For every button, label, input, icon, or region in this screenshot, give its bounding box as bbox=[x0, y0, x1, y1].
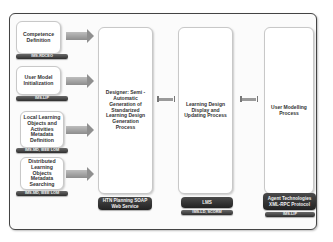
bidirectional-arrow-icon bbox=[157, 96, 175, 102]
tag-label: IMS-LIP bbox=[283, 212, 297, 216]
box-label: User Modelling Process bbox=[269, 105, 309, 117]
box-label: Local Learning Objects and Activities Me… bbox=[23, 115, 61, 145]
box-label: Designer: Semi - Automatic Generation of… bbox=[103, 90, 148, 130]
box-label: User Model Initialization bbox=[19, 75, 58, 87]
tag-label: IMS-RDCEO bbox=[31, 54, 53, 58]
box-label: Competence Definition bbox=[19, 32, 58, 44]
tag-label: HTN Planning SOAP Web Service bbox=[98, 198, 152, 208]
designer-process-box: Designer: Semi - Automatic Generation of… bbox=[98, 27, 153, 194]
standard-tag: IMS-LIP bbox=[265, 212, 315, 217]
standard-tag: IMS-MD, IEEE LOM bbox=[16, 148, 68, 153]
user-modelling-process-box: User Modelling Process bbox=[264, 27, 314, 194]
tag-label: IMS-LD, SCORM bbox=[192, 210, 221, 214]
standard-tag: IMS-RDCEO bbox=[16, 54, 68, 59]
technology-tag: LMS bbox=[181, 197, 233, 208]
box-label: Distributed Learning Objects Metadata Se… bbox=[23, 159, 61, 189]
learning-design-display-box: Learning Design Display and Updating Pro… bbox=[178, 27, 233, 194]
standard-tag: IMS-MD, IEEE LOM bbox=[16, 191, 68, 196]
tag-label: LMS bbox=[202, 200, 212, 205]
technology-tag: Agent Technologies XML-RPC Protocol bbox=[263, 193, 316, 210]
standard-tag: IMS-LD, SCORM bbox=[181, 210, 233, 215]
arrow-right-icon bbox=[66, 168, 94, 180]
tag-label: IMS-LIP bbox=[35, 96, 49, 100]
box-label: Learning Design Display and Updating Pro… bbox=[183, 102, 228, 119]
arrow-right-icon bbox=[66, 124, 94, 136]
user-model-initialization-box: User Model Initialization bbox=[16, 66, 61, 95]
standard-tag: IMS-LIP bbox=[16, 96, 68, 101]
bidirectional-arrow-icon bbox=[240, 96, 258, 102]
tag-label: Agent Technologies XML-RPC Protocol bbox=[263, 196, 316, 206]
competence-definition-box: Competence Definition bbox=[16, 21, 61, 54]
tag-label: IMS-MD, IEEE LOM bbox=[25, 148, 59, 152]
arrow-right-icon bbox=[66, 30, 94, 42]
local-learning-objects-box: Local Learning Objects and Activities Me… bbox=[20, 111, 64, 148]
technology-tag: HTN Planning SOAP Web Service bbox=[98, 197, 152, 210]
arrow-right-icon bbox=[66, 75, 94, 87]
tag-label: IMS-MD, IEEE LOM bbox=[25, 191, 59, 195]
distributed-learning-objects-box: Distributed Learning Objects Metadata Se… bbox=[20, 157, 64, 190]
